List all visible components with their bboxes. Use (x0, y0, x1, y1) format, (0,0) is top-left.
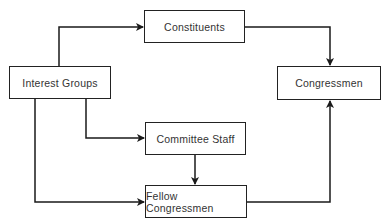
node-label: Fellow Congressmen (146, 190, 246, 214)
node-label: Interest Groups (22, 77, 97, 89)
node-interest-groups: Interest Groups (9, 66, 111, 99)
edge-fellow-congressmen-to-congressmen (247, 101, 330, 202)
node-label: Committee Staff (156, 133, 234, 145)
node-label: Congressmen (295, 77, 363, 89)
node-committee-staff: Committee Staff (145, 122, 246, 155)
node-label: Constituents (164, 21, 225, 33)
edge-constituents-to-congressmen (245, 27, 330, 65)
node-constituents: Constituents (144, 10, 245, 43)
edge-interest-groups-to-constituents (59, 27, 143, 66)
node-congressmen: Congressmen (277, 66, 381, 100)
edge-interest-groups-to-fellow-congressmen (35, 99, 144, 202)
node-fellow-congressmen: Fellow Congressmen (145, 185, 247, 218)
edge-interest-groups-to-committee-staff (86, 99, 144, 138)
